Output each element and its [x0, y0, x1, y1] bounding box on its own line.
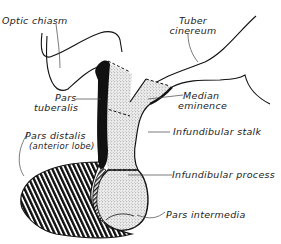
label-optic-chiasm: Optic chiasm — [2, 16, 68, 26]
pituitary-diagram: Optic chiasm Tuber cinereum Pars tuberal… — [0, 0, 281, 244]
label-pars-distalis-sub: (anterior lobe) — [29, 141, 95, 151]
label-infundibular-stalk: Infundibular stalk — [173, 127, 261, 137]
label-pars-distalis: Pars distalis — [25, 131, 86, 141]
label-median-eminence-line2: eminence — [178, 101, 227, 111]
label-pars-tuberalis-line2: tuberalis — [34, 103, 78, 113]
infundibular-stalk-region — [104, 62, 172, 170]
label-infundibular-process: Infundibular process — [172, 170, 275, 180]
label-tuber-cinereum-line2: cinereum — [169, 26, 217, 36]
diagram-drawing — [0, 0, 281, 244]
label-pars-intermedia: Pars intermedia — [166, 210, 246, 220]
